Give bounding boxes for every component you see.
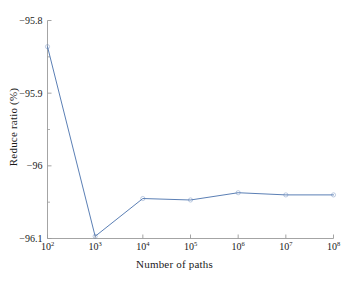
x-tick-label: 104 [136, 240, 150, 252]
y-axis-title: Reduce ratio (%) [7, 88, 19, 166]
tick-marks-group [48, 21, 334, 239]
y-tick-label: −96.1 [19, 233, 42, 244]
chart-figure: −95.8−95.9−96−96.1102103104105106107108 … [0, 0, 349, 282]
axes-group [48, 21, 334, 239]
data-series-group [45, 45, 335, 239]
x-tick-label: 103 [89, 240, 102, 252]
tick-labels-group: −95.8−95.9−96−96.1102103104105106107108 [19, 15, 340, 251]
x-axis-title: Number of paths [0, 258, 349, 270]
x-tick-label: 102 [41, 240, 54, 252]
x-tick-label: 105 [184, 240, 197, 252]
y-tick-label: −96 [27, 160, 43, 171]
x-tick-label: 107 [279, 240, 293, 252]
x-tick-label: 108 [327, 240, 340, 252]
series-line [48, 47, 334, 237]
line-chart-canvas: −95.8−95.9−96−96.1102103104105106107108 [0, 0, 349, 282]
y-tick-label: −95.9 [19, 88, 42, 99]
y-tick-label: −95.8 [19, 15, 42, 26]
y-axis-title-wrapper: Reduce ratio (%) [3, 57, 21, 197]
x-tick-label: 106 [232, 240, 246, 252]
